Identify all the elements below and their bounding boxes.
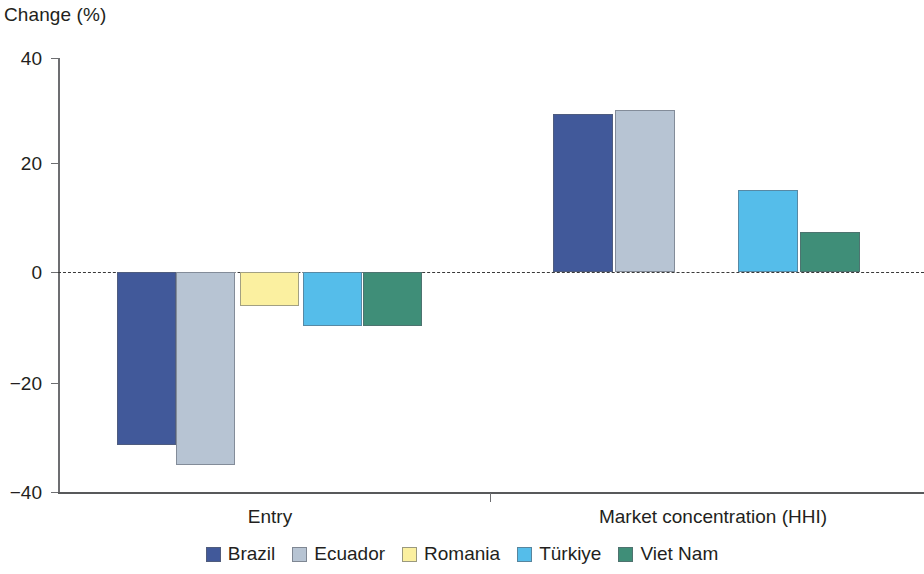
legend-swatch-icon [402, 547, 417, 562]
y-axis-title: Change (%) [4, 4, 106, 26]
bar-ecuador-market-concentration [615, 110, 675, 272]
y-tick-label-40: 40 [21, 48, 42, 70]
group-label-market-concentration: Market concentration (HHI) [599, 506, 827, 528]
bar-romania-entry [240, 272, 299, 306]
legend-swatch-icon [618, 547, 633, 562]
group-separator-tick [490, 493, 491, 502]
bar-chart: Change (%) 40 20 0 −20 −40 Entry Market … [0, 0, 924, 574]
legend-label: Viet Nam [640, 543, 718, 565]
legend-swatch-icon [206, 547, 221, 562]
y-tick-0: 0 [51, 272, 58, 273]
legend: BrazilEcuadorRomaniaTürkiyeViet Nam [0, 543, 924, 565]
legend-label: Ecuador [314, 543, 385, 565]
legend-swatch-icon [517, 547, 532, 562]
legend-label: Brazil [228, 543, 276, 565]
legend-item-viet-nam[interactable]: Viet Nam [618, 543, 718, 565]
y-tick-neg40: −40 [51, 492, 58, 493]
legend-label: Romania [424, 543, 500, 565]
legend-item-ecuador[interactable]: Ecuador [292, 543, 385, 565]
bar-viet-nam-entry [363, 272, 422, 326]
y-tick-label-neg20: −20 [10, 373, 42, 395]
legend-item-romania[interactable]: Romania [402, 543, 500, 565]
y-tick-label-0: 0 [31, 262, 42, 284]
y-tick-40: 40 [51, 58, 58, 59]
bar-ecuador-entry [176, 272, 235, 465]
group-label-entry: Entry [248, 506, 292, 528]
legend-swatch-icon [292, 547, 307, 562]
bar-trkiye-market-concentration [738, 190, 798, 272]
y-tick-label-neg40: −40 [10, 482, 42, 504]
y-tick-neg20: −20 [51, 383, 58, 384]
plot-area: 40 20 0 −20 −40 [58, 48, 924, 494]
bar-brazil-entry [117, 272, 176, 445]
bar-viet-nam-market-concentration [800, 232, 860, 272]
bar-trkiye-entry [303, 272, 362, 326]
legend-item-trkiye[interactable]: Türkiye [517, 543, 601, 565]
y-axis-line [58, 58, 60, 492]
legend-label: Türkiye [539, 543, 601, 565]
bar-brazil-market-concentration [553, 114, 613, 272]
y-tick-20: 20 [51, 163, 58, 164]
y-tick-label-20: 20 [21, 153, 42, 175]
legend-item-brazil[interactable]: Brazil [206, 543, 276, 565]
